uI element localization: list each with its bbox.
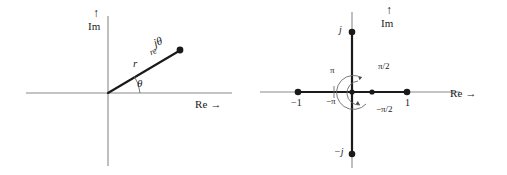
real-axis-label-left: Re →: [195, 99, 222, 110]
angle-label-pi: π: [330, 66, 335, 75]
principal-angles-panel: ↑ Im Re → −1 1 j −j π −π π/2 −π/2: [254, 0, 507, 175]
polar-form-graphic: [0, 0, 254, 175]
complex-plane-figure: ↑ Im Re → r θ rejθ: [0, 0, 507, 175]
point-label-neg-one: −1: [291, 98, 302, 108]
angle-label-pi-over-2: π/2: [378, 62, 390, 71]
magnitude-label: r: [133, 58, 137, 69]
polar-form-panel: ↑ Im Re → r θ rejθ: [0, 0, 254, 175]
point-label-j: j: [339, 25, 342, 35]
real-axis-label-right: Re →: [450, 88, 477, 99]
negative-angle-arrowhead: [356, 101, 360, 105]
dot-origin: [349, 89, 354, 94]
dot-neg-j: [349, 151, 356, 158]
dot-neg-one: [295, 89, 302, 96]
point-label-neg-j: −j: [334, 147, 344, 157]
imaginary-axis-arrow-right: ↑: [386, 4, 392, 16]
phasor-vector: [108, 51, 179, 93]
dot-j: [349, 29, 356, 36]
dot-one: [404, 89, 411, 96]
positive-angle-arrowhead: [358, 76, 362, 80]
angle-label-neg-pi: −π: [326, 97, 336, 106]
imaginary-axis-label-right: Im: [381, 18, 394, 29]
angle-label-neg-pi-over-2: −π/2: [376, 105, 393, 114]
angle-label: θ: [137, 78, 142, 89]
phasor-endpoint-dot: [177, 47, 184, 54]
imaginary-axis-arrow-left: ↑: [93, 7, 99, 19]
imaginary-axis-label-left: Im: [88, 21, 101, 32]
point-label-one: 1: [405, 98, 410, 108]
dot-arc-axis-crossing: [369, 89, 374, 94]
